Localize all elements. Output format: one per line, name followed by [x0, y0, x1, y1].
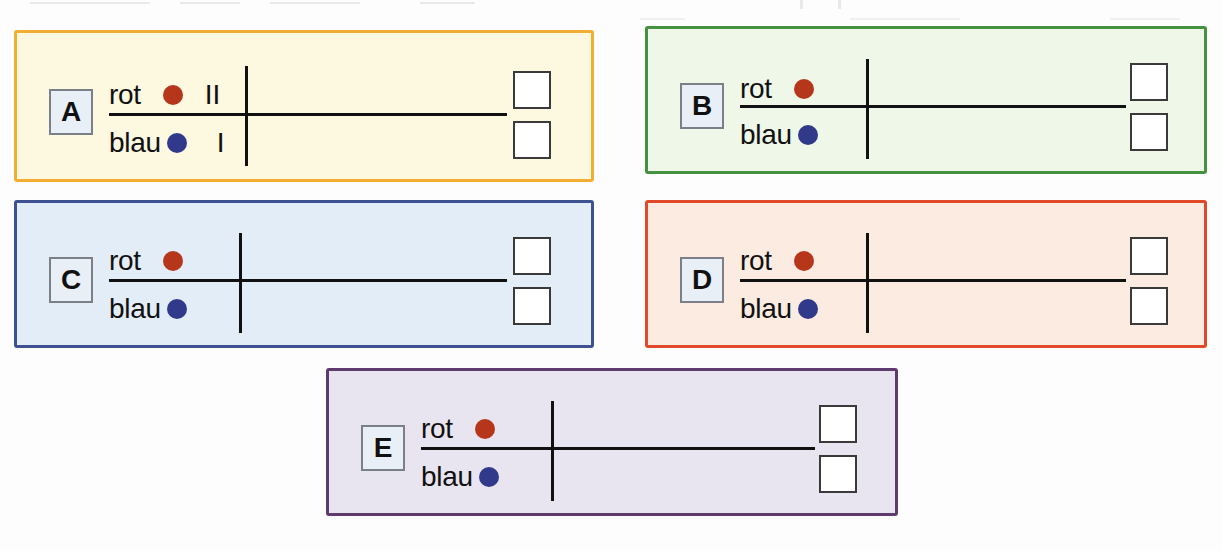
scan-speckle [180, 2, 240, 4]
red-dot [475, 419, 495, 439]
panel-d-checkbox-1[interactable] [1130, 237, 1168, 275]
red-dot [794, 79, 814, 99]
panel-b[interactable]: B rot blau [645, 26, 1207, 174]
panel-e-checkbox-2[interactable] [819, 455, 857, 493]
panel-a-row-bottom: blau I [109, 121, 225, 165]
panel-e-vertical-axis [551, 401, 554, 501]
panel-a-diagram: rot II blau I [17, 33, 591, 179]
panel-c-checkbox-1[interactable] [513, 237, 551, 275]
red-dot [163, 85, 183, 105]
panel-e-checkbox-1[interactable] [819, 405, 857, 443]
panel-c-checkbox-2[interactable] [513, 287, 551, 325]
panel-d-row-top: rot [740, 239, 836, 283]
panel-b-checkbox-2[interactable] [1130, 113, 1168, 151]
panel-c-bottom-label: blau [109, 293, 161, 325]
panel-a-vertical-axis [245, 66, 248, 166]
panel-b-top-label: rot [740, 73, 772, 105]
panel-e-diagram: rot blau [329, 371, 895, 513]
panel-b-horizontal-axis [740, 105, 1126, 108]
panel-e[interactable]: E rot blau [326, 368, 898, 516]
panel-e-top-label: rot [421, 413, 453, 445]
panel-c-diagram: rot blau [17, 203, 591, 345]
panel-a-row-top: rot II [109, 73, 220, 117]
panel-c-row-top: rot [109, 239, 205, 283]
panel-e-bottom-label: blau [421, 461, 473, 493]
scan-speckle [270, 2, 360, 4]
panel-a-bottom-numeral: I [217, 127, 225, 159]
panel-b-bottom-label: blau [740, 119, 792, 151]
panel-e-row-top: rot [421, 407, 517, 451]
panel-a[interactable]: A rot II blau I [14, 30, 594, 182]
scan-speckle [30, 2, 150, 4]
panel-c-horizontal-axis [109, 279, 507, 282]
blue-dot [167, 299, 187, 319]
panel-b-diagram: rot blau [648, 29, 1204, 171]
blue-dot [798, 299, 818, 319]
panel-d-horizontal-axis [740, 279, 1126, 282]
panel-c-top-label: rot [109, 245, 141, 277]
panel-e-row-bottom: blau [421, 455, 529, 499]
blue-dot [798, 125, 818, 145]
scan-speckle [838, 0, 841, 9]
panel-c-row-bottom: blau [109, 287, 217, 331]
panel-c-vertical-axis [239, 233, 242, 333]
scan-speckle [850, 18, 960, 20]
panel-d-top-label: rot [740, 245, 772, 277]
scan-speckle [420, 2, 475, 4]
panel-d-vertical-axis [866, 233, 869, 333]
worksheet-sheet: A rot II blau I B [0, 0, 1222, 551]
panel-a-top-label: rot [109, 79, 141, 111]
panel-b-row-bottom: blau [740, 113, 848, 157]
panel-e-horizontal-axis [421, 447, 815, 450]
red-dot [163, 251, 183, 271]
panel-b-checkbox-1[interactable] [1130, 63, 1168, 101]
panel-b-vertical-axis [866, 59, 869, 159]
panel-a-top-numeral: II [205, 79, 221, 111]
panel-c[interactable]: C rot blau [14, 200, 594, 348]
panel-a-horizontal-axis [109, 113, 507, 116]
blue-dot [167, 133, 187, 153]
red-dot [794, 251, 814, 271]
panel-d[interactable]: D rot blau [645, 200, 1207, 348]
blue-dot [479, 467, 499, 487]
scan-speckle [800, 0, 803, 9]
panel-a-checkbox-2[interactable] [513, 121, 551, 159]
panel-a-checkbox-1[interactable] [513, 71, 551, 109]
scan-speckle [640, 18, 685, 20]
panel-d-bottom-label: blau [740, 293, 792, 325]
panel-d-diagram: rot blau [648, 203, 1204, 345]
panel-a-bottom-label: blau [109, 127, 161, 159]
scan-speckle [1110, 18, 1180, 20]
panel-d-checkbox-2[interactable] [1130, 287, 1168, 325]
panel-d-row-bottom: blau [740, 287, 848, 331]
